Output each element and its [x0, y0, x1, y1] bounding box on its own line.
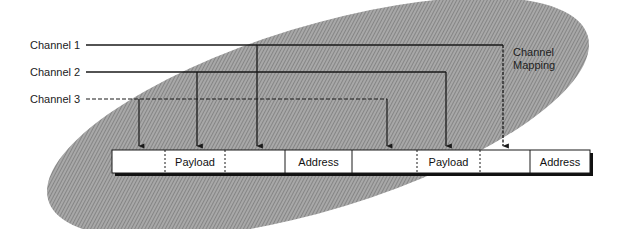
channel-1-label: Channel 1 [30, 39, 80, 51]
mapping-label-line1: Channel [513, 46, 554, 58]
diagram-canvas [0, 0, 619, 229]
segment-label-address-1: Address [285, 156, 352, 168]
segment-label-payload-2: Payload [417, 156, 480, 168]
channel-2-label: Channel 2 [30, 66, 80, 78]
segment-label-payload-1: Payload [165, 156, 225, 168]
mapping-label-line2: Mapping [513, 59, 555, 71]
channel-3-label: Channel 3 [30, 93, 80, 105]
channel-group-ellipse [21, 0, 614, 229]
segment-label-address-2: Address [530, 156, 590, 168]
channel-mapping-diagram: Channel 1 Channel 2 Channel 3 Channel Ma… [0, 0, 619, 229]
